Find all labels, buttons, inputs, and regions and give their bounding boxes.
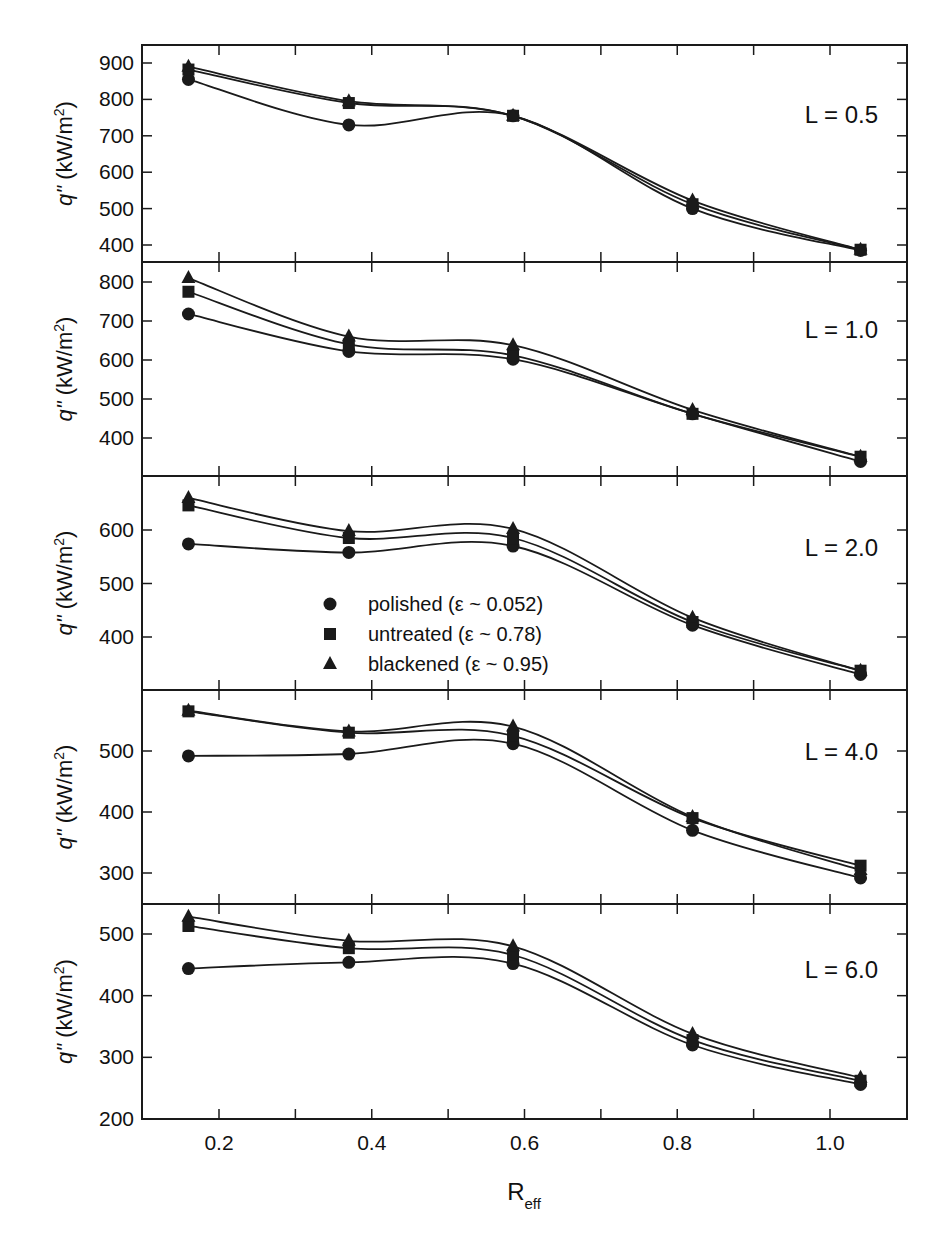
- circle-marker: [182, 962, 195, 975]
- legend-label: blackened (ε ~ 0.95): [368, 653, 549, 675]
- y-tick-label: 600: [99, 160, 134, 183]
- triangle-marker: [342, 523, 356, 536]
- y-tick-label: 200: [99, 1107, 134, 1130]
- circle-marker: [182, 749, 195, 762]
- triangle-marker: [181, 270, 195, 283]
- y-tick-label: 500: [99, 739, 134, 762]
- y-tick-label: 500: [99, 197, 134, 220]
- legend-item-circle: polished (ε ~ 0.052): [324, 593, 544, 615]
- legend-item-square: untreated (ε ~ 0.78): [324, 623, 542, 645]
- circle-marker: [182, 537, 195, 550]
- square-marker: [182, 286, 194, 298]
- square-marker: [324, 628, 336, 640]
- x-tick-label: 1.0: [815, 1131, 844, 1154]
- y-tick-label: 500: [99, 387, 134, 410]
- series-line: [188, 292, 860, 457]
- y-tick-label: 500: [99, 572, 134, 595]
- panel-label: L = 0.5: [805, 101, 878, 128]
- panel-4-0: 300400500q" (kW/m2)L = 4.0: [51, 690, 907, 904]
- y-tick-label: 300: [99, 861, 134, 884]
- triangle-marker: [181, 490, 195, 503]
- y-tick-label: 600: [99, 348, 134, 371]
- triangle-marker: [181, 909, 195, 922]
- x-tick-label: 0.4: [357, 1131, 387, 1154]
- y-tick-label: 400: [99, 233, 134, 256]
- triangle-marker: [342, 933, 356, 946]
- panel-6-0: 200300400500q" (kW/m2)L = 6.0: [51, 904, 907, 1130]
- y-tick-label: 400: [99, 984, 134, 1007]
- legend: polished (ε ~ 0.052)untreated (ε ~ 0.78)…: [323, 593, 549, 675]
- series-line: [188, 67, 860, 250]
- y-axis-label: q" (kW/m2): [51, 101, 77, 206]
- circle-marker: [324, 598, 337, 611]
- series-line: [188, 314, 860, 461]
- y-tick-label: 300: [99, 1045, 134, 1068]
- circle-marker: [342, 546, 355, 559]
- chart-panels: 400500600700800900q" (kW/m2)L = 0.540050…: [51, 45, 907, 1130]
- circle-marker: [182, 307, 195, 320]
- series-line: [188, 711, 860, 870]
- triangle-marker: [323, 656, 337, 669]
- circle-marker: [342, 748, 355, 761]
- panel-frame: [142, 262, 907, 476]
- legend-label: polished (ε ~ 0.052): [368, 593, 543, 615]
- y-axis-label: q" (kW/m2): [51, 317, 77, 422]
- y-axis-label: q" (kW/m2): [51, 745, 77, 850]
- y-tick-label: 900: [99, 51, 134, 74]
- panel-label: L = 6.0: [805, 956, 878, 983]
- panel-1-0: 400500600700800q" (kW/m2)L = 1.0: [51, 262, 907, 476]
- y-tick-label: 500: [99, 922, 134, 945]
- panel-label: L = 2.0: [805, 534, 878, 561]
- x-tick-label: 0.2: [204, 1131, 233, 1154]
- x-axis: 0.20.40.60.81.0Reff: [204, 1131, 844, 1212]
- y-tick-label: 400: [99, 625, 134, 648]
- series-line: [188, 957, 860, 1085]
- y-tick-label: 400: [99, 426, 134, 449]
- y-tick-label: 400: [99, 800, 134, 823]
- y-tick-label: 700: [99, 124, 134, 147]
- y-axis-label: q" (kW/m2): [51, 959, 77, 1064]
- y-tick-label: 800: [99, 270, 134, 293]
- x-axis-label: Reff: [507, 1178, 542, 1212]
- panel-0-5: 400500600700800900q" (kW/m2)L = 0.5: [51, 45, 907, 262]
- panel-frame: [142, 45, 907, 262]
- panel-label: L = 4.0: [805, 738, 878, 765]
- square-marker: [182, 920, 194, 932]
- circle-marker: [686, 824, 699, 837]
- x-tick-label: 0.6: [510, 1131, 539, 1154]
- square-marker: [507, 349, 519, 361]
- stacked-line-chart: 400500600700800900q" (kW/m2)L = 0.540050…: [0, 0, 939, 1245]
- panel-label: L = 1.0: [805, 316, 878, 343]
- legend-item-triangle: blackened (ε ~ 0.95): [323, 653, 549, 675]
- circle-marker: [342, 118, 355, 131]
- y-axis-label: q" (kW/m2): [51, 531, 77, 636]
- circle-marker: [342, 956, 355, 969]
- series-line: [188, 711, 860, 865]
- y-tick-label: 700: [99, 309, 134, 332]
- series-line: [188, 278, 860, 457]
- series-line: [188, 740, 860, 878]
- y-tick-label: 600: [99, 518, 134, 541]
- legend-label: untreated (ε ~ 0.78): [368, 623, 542, 645]
- y-tick-label: 800: [99, 87, 134, 110]
- x-tick-label: 0.8: [663, 1131, 692, 1154]
